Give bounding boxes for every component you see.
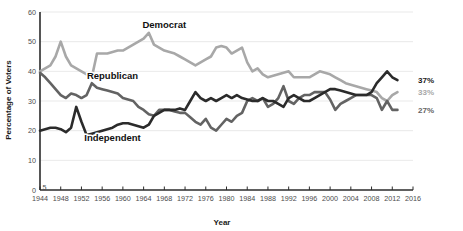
x-tick-label-1956: 1956 xyxy=(94,194,110,203)
y-tick-label-40: 40 xyxy=(28,67,36,76)
y-tick-labels: 0102030405060 xyxy=(28,8,36,195)
x-tick-label-1960: 1960 xyxy=(115,194,131,203)
y-tick-label-20: 20 xyxy=(28,126,36,135)
democrat-end-label: 33% xyxy=(418,88,434,97)
independent-series-label: Independent xyxy=(84,132,141,143)
x-tick-label-2016: 2016 xyxy=(405,194,421,203)
x-tick-label-2000: 2000 xyxy=(322,194,338,203)
x-axis-title: Year xyxy=(214,218,231,227)
y-tick-label-60: 60 xyxy=(28,8,36,17)
x-tick-label-2004: 2004 xyxy=(343,194,359,203)
x-tick-label-1944: 1944 xyxy=(32,194,48,203)
y-tick-label-50: 50 xyxy=(28,37,36,46)
line-chart: 0102030405060 19441948195219561960196419… xyxy=(0,0,463,231)
y-tick-label-30: 30 xyxy=(28,97,36,106)
y-tick-label-10: 10 xyxy=(28,156,36,165)
x-tick-label-1980: 1980 xyxy=(219,194,235,203)
x-tick-label-1992: 1992 xyxy=(281,194,297,203)
x-tick-label-1972: 1972 xyxy=(177,194,193,203)
chart-container: 0102030405060 19441948195219561960196419… xyxy=(0,0,463,231)
x-tick-label-1988: 1988 xyxy=(260,194,276,203)
x-tick-label-1964: 1964 xyxy=(136,194,152,203)
independent-end-label: 37% xyxy=(418,76,434,85)
republican-series-label: Republican xyxy=(87,70,138,81)
democrat-series-label: Democrat xyxy=(142,19,187,30)
y-axis-break-marker: 5 xyxy=(43,183,47,192)
x-tick-label-1996: 1996 xyxy=(301,194,317,203)
x-axis xyxy=(40,187,413,191)
x-tick-label-1976: 1976 xyxy=(198,194,214,203)
x-tick-label-1984: 1984 xyxy=(239,194,255,203)
x-tick-label-1948: 1948 xyxy=(53,194,69,203)
x-tick-labels: 1944194819521956196019641968197219761980… xyxy=(32,194,421,203)
end-value-labels: 37%33%27% xyxy=(418,76,434,115)
series-lines xyxy=(40,33,397,135)
x-tick-label-1952: 1952 xyxy=(73,194,89,203)
republican-end-label: 27% xyxy=(418,106,434,115)
x-tick-label-2008: 2008 xyxy=(364,194,380,203)
y-axis-title: Percentage of Voters xyxy=(4,60,13,140)
x-tick-label-2012: 2012 xyxy=(384,194,400,203)
x-tick-label-1968: 1968 xyxy=(156,194,172,203)
